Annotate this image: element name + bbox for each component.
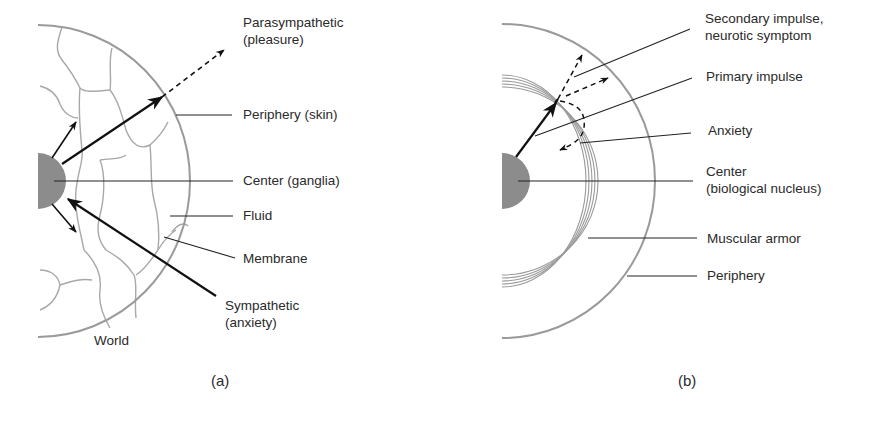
- parasympathetic-dashed-arrow-icon: [162, 50, 224, 97]
- label-sympathetic: Sympathetic (anxiety): [225, 297, 299, 331]
- parasympathetic-arrow-icon: [62, 97, 162, 164]
- label-sympathetic-line1: Sympathetic: [225, 297, 299, 314]
- label-membrane: Membrane: [243, 250, 308, 267]
- label-center-line1: Center: [706, 163, 822, 180]
- label-periphery-skin: Periphery (skin): [243, 106, 338, 123]
- panel-a: [38, 25, 235, 337]
- panel-b: [502, 24, 697, 338]
- label-parasympathetic-line2: (pleasure): [243, 31, 344, 48]
- label-parasympathetic: Parasympathetic (pleasure): [243, 14, 344, 48]
- label-world: World: [94, 332, 129, 349]
- label-parasympathetic-line1: Parasympathetic: [243, 14, 344, 31]
- label-secondary-impulse: Secondary impulse, neurotic symptom: [705, 10, 824, 44]
- label-muscular-armor: Muscular armor: [707, 230, 801, 247]
- secondary-impulse-right-arrow-icon: [566, 78, 608, 96]
- label-anxiety: Anxiety: [708, 122, 752, 139]
- label-primary-impulse: Primary impulse: [706, 68, 803, 85]
- sympathetic-arrow-icon: [68, 199, 216, 296]
- label-center-biological-nucleus: Center (biological nucleus): [706, 163, 822, 197]
- label-periphery-b: Periphery: [707, 267, 765, 284]
- label-center-line2: (biological nucleus): [706, 180, 822, 197]
- inward-impulse-short-arrow-icon: [52, 204, 76, 232]
- label-sympathetic-line2: (anxiety): [225, 314, 299, 331]
- label-center-ganglia: Center (ganglia): [243, 172, 340, 189]
- label-secondary-line2: neurotic symptom: [705, 27, 824, 44]
- caption-a: (a): [211, 372, 229, 389]
- diagram-canvas: [0, 0, 870, 434]
- label-fluid: Fluid: [243, 207, 272, 224]
- outgoing-impulse-short-arrow-icon: [52, 122, 76, 158]
- secondary-impulse-up-arrow-icon: [558, 55, 582, 99]
- label-secondary-line1: Secondary impulse,: [705, 10, 824, 27]
- caption-b: (b): [678, 372, 696, 389]
